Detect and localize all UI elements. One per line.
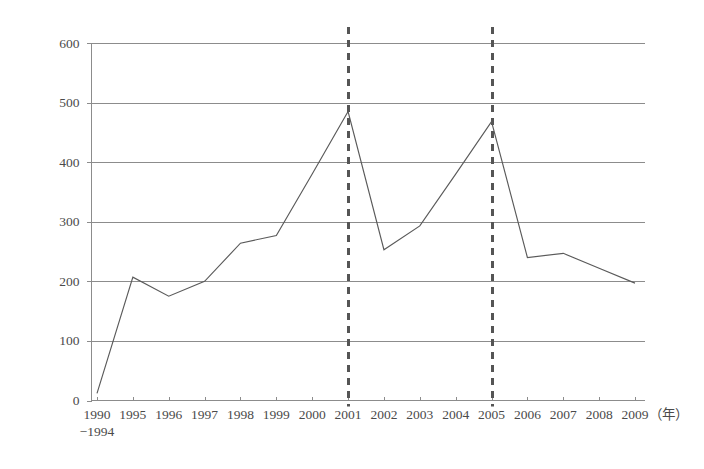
reference-lines-group [349,27,493,407]
x-axis-tick-label-8: 2002 [370,407,397,422]
y-axis-tick-label-0: 0 [73,393,80,408]
x-axis-unit-label-group: （年） [649,407,688,422]
x-axis-ticks-group [98,397,636,401]
y-axis-tick-label-100: 100 [59,333,80,348]
gridlines-group [92,44,646,342]
x-axis-tick-label-4: 1998 [227,407,254,422]
x-axis-tick-label-0: 1990 [84,407,111,422]
y-axis-tick-label-200: 200 [59,274,80,289]
y-axis-tick-label-500: 500 [59,95,80,110]
x-axis-tick-label-9: 2003 [406,407,433,422]
x-axis-tick-label-7: 2001 [335,407,362,422]
line-chart: 0100200300400500600 1990−199419951996199… [0,0,704,469]
x-axis-tick-label-0-line1: −1994 [80,424,115,439]
x-axis-tick-labels-group: 1990−19941995199619971998199920002001200… [80,407,649,439]
x-axis-unit-label: （年） [649,407,688,422]
x-axis-tick-label-11: 2005 [478,407,505,422]
y-axis-tick-label-600: 600 [59,36,80,51]
x-axis-tick-label-14: 2008 [586,407,613,422]
y-axis-tick-labels-group: 0100200300400500600 [59,36,91,409]
x-axis-tick-label-6: 2000 [299,407,326,422]
x-axis-tick-label-2: 1996 [155,407,182,422]
y-axis-tick-label-400: 400 [59,155,80,170]
chart-figure: 0100200300400500600 1990−199419951996199… [0,0,704,469]
data-series-line [97,112,635,394]
data-series-group [97,112,635,394]
y-axis-tick-label-300: 300 [59,214,80,229]
x-axis-tick-label-3: 1997 [191,407,218,422]
x-axis-tick-label-12: 2006 [514,407,541,422]
x-axis-tick-label-5: 1999 [263,407,290,422]
x-axis-tick-label-15: 2009 [622,407,649,422]
x-axis-tick-label-13: 2007 [550,407,577,422]
x-axis-tick-label-10: 2004 [442,407,469,422]
x-axis-tick-label-1: 1995 [119,407,146,422]
